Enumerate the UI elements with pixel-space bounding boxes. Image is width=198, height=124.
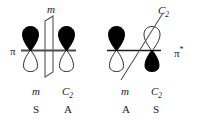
- left-lobe-top-dark: [109, 27, 125, 52]
- mirror-plane-parallelogram: [45, 16, 53, 77]
- symmetry-value-under-c2: S: [153, 104, 159, 115]
- symmetry-value-under-m: A: [122, 104, 130, 115]
- right-atomic-orbital: [144, 27, 160, 72]
- right-lobe-bottom-light: [60, 50, 74, 72]
- c2-axis-subscript: 2: [165, 10, 169, 19]
- symmetry-op-c2-subscript: 2: [69, 91, 73, 100]
- right-lobe-top-dark: [59, 27, 75, 52]
- panel-pi-orbital: m π m C2 S A: [0, 0, 99, 124]
- symmetry-op-c2-label: C2: [62, 86, 73, 100]
- orbital-symmetry-figure: m π m C2 S A: [0, 0, 198, 124]
- symmetry-op-m-label: m: [121, 86, 129, 97]
- right-atomic-orbital: [59, 27, 75, 72]
- c2-axis-label-top: C2: [158, 5, 169, 19]
- left-atomic-orbital: [23, 27, 39, 72]
- symmetry-value-under-c2: A: [64, 104, 72, 115]
- pi-orbital-drawing: [0, 0, 99, 124]
- left-lobe-bottom-light: [24, 50, 38, 72]
- pi-star-orbital-drawing: [99, 0, 198, 124]
- symmetry-op-c2-label: C2: [151, 86, 162, 100]
- panel-pi-star-orbital: C2 π* m C2 A S: [99, 0, 198, 124]
- orbital-label-star: *: [180, 45, 184, 54]
- orbital-label-pi: π: [10, 46, 16, 57]
- left-lobe-bottom-light: [110, 50, 124, 72]
- symmetry-op-c2-subscript: 2: [158, 91, 162, 100]
- symmetry-op-m-label: m: [32, 86, 40, 97]
- left-atomic-orbital: [109, 27, 125, 72]
- orbital-label-pi-star: π*: [174, 46, 184, 59]
- left-lobe-top-dark: [23, 27, 39, 52]
- right-lobe-bottom-dark: [145, 50, 159, 72]
- symmetry-value-under-m: S: [33, 104, 39, 115]
- mirror-plane-label-top: m: [47, 4, 55, 15]
